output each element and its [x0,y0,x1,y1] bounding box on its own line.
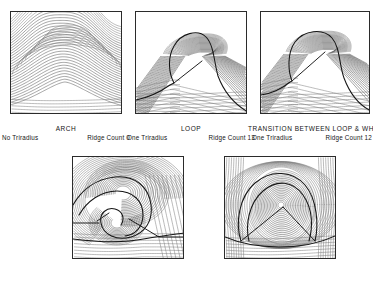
whorl-print-image [224,156,336,259]
panel-arch-details: No Triradius Ridge Count 0 [2,134,130,142]
panel-arch-ridge-count: Ridge Count 0 [87,134,130,142]
double-loop-print-image [72,156,184,259]
whorl-ridge-drawing [225,157,336,259]
fingerprint-pattern-figure: ARCH No Triradius Ridge Count 0 LOOP One… [0,0,373,295]
panel-transition-triradius: One Triradius [252,134,296,142]
panel-transition-details: One Triradius Ridge Count 12 [252,134,372,142]
panel-transition-ridge-count: Ridge Count 12 [325,134,372,142]
loop-print-image [135,11,247,114]
loop-ridge-drawing [136,12,247,114]
panel-loop-caption: LOOP [135,125,247,133]
panel-loop-details: One Triradius Ridge Count 13 [127,134,255,142]
arch-ridge-drawing [11,12,122,114]
panel-transition-caption: TRANSITION BETWEEN LOOP & WHORL [248,125,373,133]
arch-print-image [10,11,122,114]
panel-arch-triradius: No Triradius [2,134,42,142]
transition-print-image [260,11,370,114]
double-loop-ridge-drawing [73,157,184,259]
panel-arch-caption: ARCH [10,125,122,133]
panel-loop-triradius: One Triradius [127,134,171,142]
transition-ridge-drawing [261,12,370,114]
panel-loop-ridge-count: Ridge Count 13 [208,134,255,142]
